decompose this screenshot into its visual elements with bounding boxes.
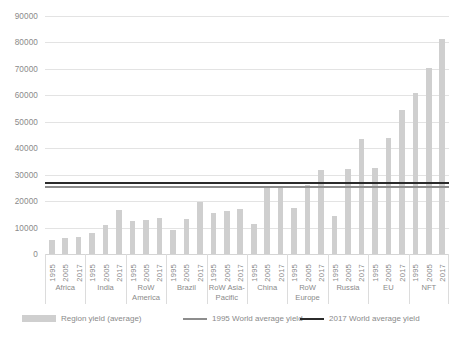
bar — [197, 202, 203, 254]
bar — [157, 218, 163, 254]
legend-swatch-bar-icon — [22, 315, 56, 322]
reference-line — [45, 182, 449, 184]
x-axis-separator — [247, 254, 248, 304]
legend-item[interactable]: 1995 World average yield — [183, 314, 303, 323]
reference-line — [45, 186, 449, 188]
bar — [413, 93, 419, 254]
bar — [332, 216, 338, 254]
x-tick-label-year: 2005 — [142, 264, 151, 282]
x-axis-group-label: India — [85, 283, 125, 293]
x-axis-separator — [85, 254, 86, 304]
x-tick-label-year: 2005 — [344, 264, 353, 282]
x-axis-group-label: NFT — [409, 283, 449, 293]
x-tick-label-year: 2017 — [155, 264, 164, 282]
bar — [291, 208, 297, 254]
bar — [184, 219, 190, 254]
y-tick-label-50000: 50000 — [15, 117, 38, 126]
x-tick-label-year: 2005 — [384, 264, 393, 282]
x-tick-label-year: 1995 — [48, 264, 57, 282]
bar — [386, 138, 392, 254]
x-tick-label-year: 2005 — [102, 264, 111, 282]
bar — [143, 220, 149, 254]
x-axis-separator — [166, 254, 167, 304]
bar — [439, 39, 445, 254]
bar — [278, 186, 284, 254]
x-axis-separator — [448, 254, 449, 304]
bar — [130, 221, 136, 254]
x-axis-group-label: Africa — [45, 283, 85, 293]
x-tick-label-year: 2017 — [438, 264, 447, 282]
x-axis-separator — [328, 254, 329, 304]
bar — [103, 225, 109, 254]
x-axis-group-label: EU — [368, 283, 408, 293]
x-tick-label-year: 1995 — [371, 264, 380, 282]
x-tick-label-year: 2017 — [196, 264, 205, 282]
bar — [237, 209, 243, 254]
chart-legend: Region yield (average)1995 World average… — [0, 308, 457, 332]
x-tick-label-year: 2005 — [425, 264, 434, 282]
bar — [251, 224, 257, 254]
x-tick-label-year: 1995 — [88, 264, 97, 282]
x-axis-group-label: RoW America — [126, 283, 166, 302]
bar — [426, 68, 432, 254]
legend-item[interactable]: 2017 World average yield — [300, 314, 420, 323]
x-tick-label-year: 1995 — [169, 264, 178, 282]
bar — [224, 211, 230, 254]
x-axis-group-label: Brazil — [166, 283, 206, 293]
x-axis-separator — [126, 254, 127, 304]
y-tick-label-70000: 70000 — [15, 64, 38, 73]
x-tick-label-year: 1995 — [411, 264, 420, 282]
y-axis: 0100002000030000400005000060000700008000… — [0, 16, 42, 254]
x-tick-label-year: 2017 — [115, 264, 124, 282]
plot-area — [45, 16, 449, 254]
x-axis-separator — [287, 254, 288, 304]
y-tick-label-10000: 10000 — [15, 223, 38, 232]
x-tick-label-year: 2017 — [277, 264, 286, 282]
x-tick-label-year: 2017 — [398, 264, 407, 282]
bar — [372, 168, 378, 254]
bar — [62, 238, 68, 254]
bar — [89, 233, 95, 254]
y-tick-label-60000: 60000 — [15, 91, 38, 100]
x-tick-label-year: 2005 — [263, 264, 272, 282]
x-axis-group-label: RoW Europe — [287, 283, 327, 302]
bar — [76, 237, 82, 254]
legend-label: 2017 World average yield — [329, 314, 420, 323]
legend-item[interactable]: Region yield (average) — [22, 314, 142, 323]
bar — [305, 185, 311, 254]
bar — [170, 230, 176, 254]
bars-layer — [45, 16, 449, 254]
x-axis-separator — [368, 254, 369, 304]
x-axis-group-label: China — [247, 283, 287, 293]
y-tick-label-30000: 30000 — [15, 170, 38, 179]
x-tick-label-year: 1995 — [290, 264, 299, 282]
x-tick-label-year: 1995 — [250, 264, 259, 282]
bar — [264, 187, 270, 254]
x-tick-label-year: 2017 — [75, 264, 84, 282]
x-tick-label-year: 2005 — [182, 264, 191, 282]
bar — [359, 139, 365, 254]
bar — [116, 210, 122, 254]
x-axis-separator — [207, 254, 208, 304]
x-tick-label-year: 2017 — [317, 264, 326, 282]
legend-swatch-line-icon — [300, 318, 324, 320]
legend-swatch-line-icon — [183, 318, 207, 320]
x-tick-label-year: 2017 — [357, 264, 366, 282]
x-tick-label-year: 2005 — [223, 264, 232, 282]
x-tick-label-year: 2005 — [304, 264, 313, 282]
bar — [49, 240, 55, 254]
bar — [211, 213, 217, 254]
x-tick-label-year: 2005 — [61, 264, 70, 282]
y-tick-label-80000: 80000 — [15, 38, 38, 47]
y-tick-label-0: 0 — [33, 250, 38, 259]
legend-label: Region yield (average) — [61, 314, 142, 323]
bar-chart: 0100002000030000400005000060000700008000… — [0, 0, 457, 340]
x-tick-label-year: 2017 — [236, 264, 245, 282]
x-axis: 1995200520171995200520171995200520171995… — [45, 254, 449, 304]
y-tick-label-20000: 20000 — [15, 197, 38, 206]
x-tick-label-year: 1995 — [129, 264, 138, 282]
x-axis-separator — [45, 254, 46, 304]
y-tick-label-40000: 40000 — [15, 144, 38, 153]
x-tick-label-year: 1995 — [209, 264, 218, 282]
x-axis-separator — [409, 254, 410, 304]
